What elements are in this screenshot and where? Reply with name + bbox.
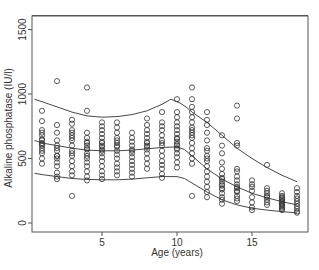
y-tick-label: 1000	[17, 82, 28, 105]
data-point	[69, 143, 74, 148]
data-point	[144, 166, 149, 171]
data-point	[189, 85, 194, 90]
data-point	[189, 140, 194, 145]
data-point	[219, 166, 224, 171]
data-point	[249, 188, 254, 193]
data-point	[159, 133, 164, 138]
data-point	[219, 143, 224, 148]
data-point	[204, 122, 209, 127]
data-point	[189, 193, 194, 198]
data-point	[189, 97, 194, 102]
data-point	[204, 169, 209, 174]
data-point	[84, 108, 89, 113]
data-point	[249, 195, 254, 200]
data-point	[204, 179, 209, 184]
data-point	[159, 175, 164, 180]
data-point	[84, 178, 89, 183]
data-point	[189, 146, 194, 151]
data-point	[114, 120, 119, 125]
data-point	[84, 130, 89, 135]
data-point	[219, 201, 224, 206]
data-point	[69, 159, 74, 164]
data-point	[144, 151, 149, 156]
x-tick-label: 5	[99, 237, 105, 248]
data-point	[174, 115, 179, 120]
data-point	[204, 195, 209, 200]
data-point	[84, 169, 89, 174]
data-point	[69, 164, 74, 169]
data-point	[54, 130, 59, 135]
data-point	[174, 155, 179, 160]
data-point	[204, 184, 209, 189]
data-point	[219, 151, 224, 156]
data-point	[99, 177, 104, 182]
data-point	[204, 164, 209, 169]
data-point	[174, 160, 179, 165]
data-point	[39, 119, 44, 124]
data-point	[204, 110, 209, 115]
data-point	[234, 116, 239, 121]
data-point	[39, 108, 44, 113]
data-point	[204, 174, 209, 179]
data-point	[189, 115, 194, 120]
centile-curves	[35, 99, 298, 213]
data-point	[144, 122, 149, 127]
data-point	[204, 130, 209, 135]
data-point	[159, 153, 164, 158]
data-point	[204, 117, 209, 122]
data-point	[189, 120, 194, 125]
data-point	[54, 164, 59, 169]
scatter-chart: 050010001500 51015 Alkaline phosphatase …	[0, 0, 319, 270]
data-point	[114, 125, 119, 130]
data-point	[159, 148, 164, 153]
data-point	[159, 166, 164, 171]
data-point	[129, 174, 134, 179]
data-point	[174, 97, 179, 102]
y-axis-title: Alkaline phosphatase (IU/l)	[3, 68, 14, 188]
data-point	[189, 156, 194, 161]
data-point	[114, 156, 119, 161]
data-point	[159, 110, 164, 115]
data-point	[129, 130, 134, 135]
data-point	[144, 161, 149, 166]
data-point	[249, 200, 254, 205]
data-point	[219, 160, 224, 165]
data-point	[54, 122, 59, 127]
y-axis: 050010001500	[17, 18, 32, 226]
data-point	[84, 164, 89, 169]
data-point	[99, 164, 104, 169]
lower-centile-line	[35, 173, 298, 213]
data-point	[264, 162, 269, 167]
data-point	[189, 104, 194, 109]
x-axis: 51015	[99, 232, 258, 248]
data-point	[174, 165, 179, 170]
data-point	[144, 156, 149, 161]
data-point	[159, 128, 164, 133]
data-point	[174, 110, 179, 115]
data-point	[114, 173, 119, 178]
data-point	[189, 151, 194, 156]
data-point	[69, 193, 74, 198]
data-point	[54, 138, 59, 143]
x-tick-label: 15	[246, 237, 258, 248]
data-point	[84, 85, 89, 90]
data-point	[39, 156, 44, 161]
data-point	[189, 161, 194, 166]
data-point	[204, 138, 209, 143]
data-point	[99, 159, 104, 164]
data-point	[69, 121, 74, 126]
data-point	[144, 116, 149, 121]
y-tick-label: 500	[17, 150, 28, 167]
data-point	[39, 161, 44, 166]
x-axis-title: Age (years)	[151, 247, 203, 258]
y-tick-label: 0	[17, 220, 28, 226]
y-tick-label: 1500	[17, 18, 28, 41]
data-point	[114, 130, 119, 135]
data-point	[54, 79, 59, 84]
data-point	[69, 173, 74, 178]
data-point	[234, 103, 239, 108]
